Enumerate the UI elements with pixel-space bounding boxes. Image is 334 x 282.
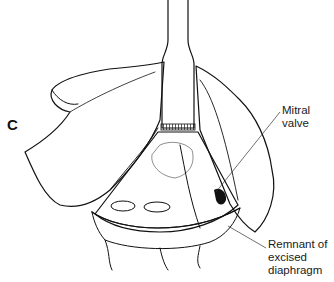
label-remnant-diaphragm: Remnant of excised diaphragm	[268, 238, 327, 277]
mitral-leader-line	[216, 112, 280, 192]
diaphragm-remnant	[92, 208, 240, 270]
vein-orifice-right	[144, 202, 170, 212]
panel-letter: C	[7, 116, 18, 133]
left-tissue-flap	[25, 62, 164, 206]
label-mitral-valve: Mitral valve	[282, 104, 334, 130]
label-remnant-line-1: Remnant of	[268, 238, 327, 251]
vein-orifice-left	[111, 201, 135, 211]
remnant-leader-line	[228, 226, 266, 248]
retractor	[161, 0, 195, 130]
label-remnant-line-2: excised	[268, 251, 327, 264]
label-remnant-line-3: diaphragm	[268, 264, 327, 277]
surgical-illustration: C Mitral valve Remnant of excised diaphr…	[0, 0, 334, 282]
